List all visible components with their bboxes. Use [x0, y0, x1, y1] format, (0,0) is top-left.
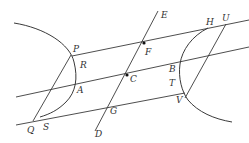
- label-R: R: [79, 60, 87, 70]
- label-A: A: [76, 85, 84, 95]
- left-hyperbola-branch: [14, 23, 76, 117]
- parallel-chord-PU: [72, 20, 249, 56]
- point-F: [142, 41, 145, 44]
- label-V: V: [176, 95, 184, 105]
- label-U: U: [222, 13, 230, 23]
- label-C: C: [130, 74, 137, 84]
- hyperbola-diagram: P R A Q S E F C G D H U B T V: [0, 0, 249, 143]
- line-QP: [33, 55, 71, 121]
- label-E: E: [160, 10, 168, 20]
- right-hyperbola-branch: [179, 28, 232, 122]
- label-B: B: [168, 64, 176, 74]
- label-D: D: [94, 129, 102, 139]
- label-S: S: [43, 122, 49, 132]
- label-G: G: [110, 106, 117, 116]
- label-H: H: [205, 17, 214, 27]
- label-F: F: [144, 47, 152, 57]
- label-Q: Q: [27, 125, 35, 135]
- label-P: P: [72, 44, 80, 54]
- diameter-line-DE: [95, 11, 158, 131]
- point-C: [125, 73, 128, 76]
- line-UV: [185, 24, 226, 98]
- label-T: T: [169, 78, 176, 88]
